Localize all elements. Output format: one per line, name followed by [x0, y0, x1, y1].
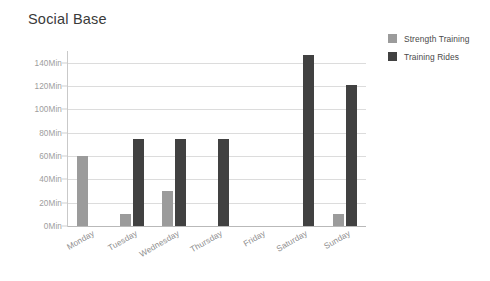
bar-sunday-training-rides[interactable]: [346, 85, 357, 226]
bar-sunday-strength-training[interactable]: [333, 214, 344, 226]
bar-thursday-training-rides[interactable]: [218, 139, 229, 227]
x-tick-label-thursday: Thursday: [174, 228, 224, 263]
plot-area: [68, 51, 366, 226]
bars-layer: [68, 51, 366, 226]
x-tick-label-tuesday: Tuesday: [89, 228, 139, 263]
chart-card: Social Base 0Min20Min40Min60Min80Min100M…: [0, 0, 490, 281]
y-tick-label: 100Min: [35, 105, 62, 114]
gridline-0: [68, 226, 366, 227]
y-axis-labels: 0Min20Min40Min60Min80Min100Min120Min140M…: [0, 51, 62, 226]
legend-swatch-icon: [388, 52, 397, 61]
legend-swatch-icon: [388, 34, 397, 43]
y-tick-label: 20Min: [39, 198, 62, 207]
chart-legend: Strength TrainingTraining Rides: [388, 33, 484, 69]
chart-title: Social Base: [28, 11, 107, 27]
bar-saturday-training-rides[interactable]: [303, 55, 314, 227]
bar-monday-strength-training[interactable]: [77, 156, 88, 226]
bar-group-friday: [238, 51, 281, 226]
legend-label: Training Rides: [404, 52, 459, 62]
bar-group-monday: [68, 51, 111, 226]
y-tick-label: 80Min: [39, 128, 62, 137]
bar-group-saturday: [281, 51, 324, 226]
legend-item-strength[interactable]: Strength Training: [388, 33, 484, 44]
bar-wednesday-strength-training[interactable]: [162, 191, 173, 226]
y-tick-label: 0Min: [44, 222, 62, 231]
bar-tuesday-strength-training[interactable]: [120, 214, 131, 226]
bar-tuesday-training-rides[interactable]: [133, 139, 144, 227]
legend-label: Strength Training: [404, 34, 469, 44]
bar-group-wednesday: [153, 51, 196, 226]
x-axis-labels: MondayTuesdayWednesdayThursdayFridaySatu…: [68, 228, 366, 273]
legend-item-rides[interactable]: Training Rides: [388, 51, 484, 62]
bar-group-sunday: [323, 51, 366, 226]
bar-wednesday-training-rides[interactable]: [175, 139, 186, 227]
y-tick-label: 120Min: [35, 82, 62, 91]
y-tick-label: 140Min: [35, 58, 62, 67]
bar-group-thursday: [196, 51, 239, 226]
x-tick-label-saturday: Saturday: [259, 228, 309, 263]
y-tick-label: 60Min: [39, 152, 62, 161]
x-tick-label-sunday: Sunday: [302, 228, 352, 263]
x-tick-label-wednesday: Wednesday: [131, 228, 181, 263]
y-tick-label: 40Min: [39, 175, 62, 184]
x-tick-label-friday: Friday: [217, 228, 267, 263]
bar-group-tuesday: [111, 51, 154, 226]
x-tick-label-monday: Monday: [46, 228, 96, 263]
